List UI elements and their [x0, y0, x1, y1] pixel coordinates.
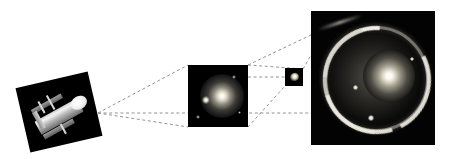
- field-star: [410, 57, 414, 61]
- unresolved-lens-blob: [289, 71, 301, 82]
- figure-root: [0, 0, 451, 159]
- connector-wide-to-inset-bottom: [248, 86, 285, 127]
- field-star: [238, 111, 241, 114]
- lens-galaxy-core: [363, 50, 415, 102]
- field-star: [232, 75, 236, 79]
- connector-inset-to-ring-top: [248, 35, 311, 65]
- field-star: [353, 85, 358, 90]
- small-crop-inset-panel: [285, 68, 303, 86]
- companion-source: [202, 96, 210, 104]
- connector-telescope-to-wide-top: [98, 65, 188, 113]
- connector-telescope-to-wide-bottom: [98, 113, 188, 127]
- field-star: [368, 115, 374, 121]
- hubble-space-telescope-panel: [16, 72, 103, 153]
- wide-field-galaxy-panel: [188, 65, 248, 127]
- field-star: [196, 115, 200, 119]
- einstein-ring-panel: [311, 11, 435, 145]
